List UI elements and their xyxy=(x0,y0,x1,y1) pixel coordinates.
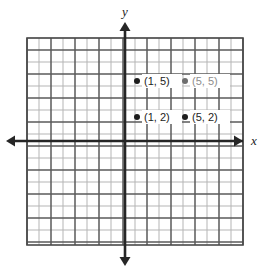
point-1-2-label: (1, 2) xyxy=(144,111,170,123)
point-5-5-label: (5, 5) xyxy=(192,75,218,87)
point-1-5-marker[interactable] xyxy=(134,78,140,84)
point-5-2-label: (5, 2) xyxy=(192,111,218,123)
x-axis-label: x xyxy=(250,133,257,148)
point-1-2-marker[interactable] xyxy=(134,114,140,120)
point-5-5-marker[interactable] xyxy=(182,78,188,84)
point-5-2-marker[interactable] xyxy=(182,114,188,120)
y-axis-label: y xyxy=(120,4,128,19)
coordinate-plane-figure: x y (1, 5)(5, 5)(1, 2)(5, 2) xyxy=(0,0,269,269)
coordinate-plane-svg: x y (1, 5)(5, 5)(1, 2)(5, 2) xyxy=(0,0,269,269)
point-1-5-label: (1, 5) xyxy=(144,75,170,87)
